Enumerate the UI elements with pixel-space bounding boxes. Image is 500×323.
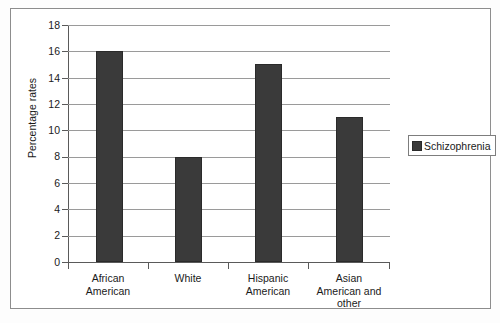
bar-asian-american-and-other[interactable] (336, 117, 363, 262)
y-axis-tick-labels: 18 16 14 12 10 8 6 4 2 0 (30, 0, 60, 300)
category-label-line: American (223, 285, 313, 298)
legend-swatch-schizophrenia (412, 141, 422, 151)
category-label-line: Hispanic (223, 272, 313, 285)
bar-white[interactable] (175, 157, 202, 262)
y-tick-label-4: 4 (34, 204, 60, 214)
category-label-line: African (63, 272, 153, 285)
plot-area (68, 25, 390, 262)
gridline-18 (68, 25, 390, 26)
category-label-hispanic-american: Hispanic American (223, 272, 313, 297)
bar-hispanic-american[interactable] (255, 64, 282, 262)
category-label-asian-american-and-other: Asian American and other (304, 272, 394, 310)
category-label-line: other (304, 297, 394, 310)
y-tick-label-8: 8 (34, 151, 60, 161)
y-tick-label-2: 2 (34, 230, 60, 240)
category-label-african-american: African American (63, 272, 153, 297)
legend-label-schizophrenia: Schizophrenia (424, 140, 491, 152)
category-label-line: American and (304, 285, 394, 298)
category-label-line: Asian (304, 272, 394, 285)
chart-legend[interactable]: Schizophrenia (408, 135, 496, 156)
category-tick-1 (148, 262, 149, 269)
category-label-line: White (143, 272, 233, 285)
y-tick-label-10: 10 (34, 125, 60, 135)
axis-baseline (68, 262, 390, 263)
chart-figure: Percentage rates 18 16 14 12 10 8 6 4 2 … (0, 0, 500, 323)
y-tick-label-14: 14 (34, 73, 60, 83)
y-tick-label-16: 16 (34, 46, 60, 56)
category-tick-3 (308, 262, 309, 269)
y-tick-label-18: 18 (34, 20, 60, 30)
category-tick-0 (68, 262, 69, 269)
bar-african-american[interactable] (96, 51, 123, 262)
y-tick-label-12: 12 (34, 99, 60, 109)
category-label-white: White (143, 272, 233, 285)
y-tick-label-0: 0 (34, 257, 60, 267)
category-tick-4 (389, 262, 390, 269)
category-tick-2 (228, 262, 229, 269)
category-label-line: American (63, 285, 153, 298)
y-tick-label-6: 6 (34, 178, 60, 188)
